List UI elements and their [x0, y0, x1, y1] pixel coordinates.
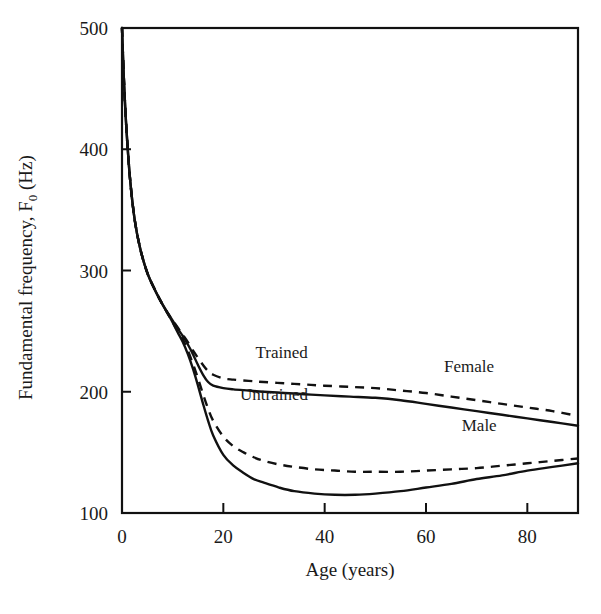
y-axis-title-text: Fundamental frequency, F	[15, 201, 36, 400]
x-tick-label: 80	[518, 526, 537, 547]
x-axis-title: Age (years)	[305, 559, 394, 581]
y-axis-ticks: 100200300400500	[80, 18, 132, 524]
svg-text:Fundamental frequency, F0 (Hz): Fundamental frequency, F0 (Hz)	[15, 155, 40, 400]
x-tick-label: 0	[117, 526, 127, 547]
curve-label-untrained: Untrained	[240, 385, 308, 404]
curve-annotations: TrainedUntrainedFemaleMale	[240, 343, 497, 435]
figure-caption	[8, 600, 593, 614]
y-tick-label: 100	[80, 503, 109, 524]
series-line-male-untrained	[122, 28, 578, 495]
series-line-female-untrained	[122, 28, 578, 426]
y-tick-label: 500	[80, 18, 109, 39]
y-tick-label: 300	[80, 261, 109, 282]
plot-frame	[122, 28, 578, 513]
curve-label-female: Female	[444, 357, 494, 376]
x-tick-label: 60	[417, 526, 436, 547]
figure-container: Fundamental frequency, F0 (Hz) 100200300…	[0, 0, 601, 614]
y-axis-title-unit: (Hz)	[15, 155, 37, 195]
y-axis-title: Fundamental frequency, F0 (Hz)	[15, 155, 40, 400]
x-tick-label: 40	[315, 526, 334, 547]
series-line-male-trained	[122, 28, 578, 472]
line-chart: Fundamental frequency, F0 (Hz) 100200300…	[0, 0, 601, 614]
series-group	[122, 28, 578, 495]
y-tick-label: 200	[80, 382, 109, 403]
curve-label-male: Male	[462, 416, 497, 435]
x-axis-ticks: 020406080	[117, 503, 537, 547]
x-tick-label: 20	[214, 526, 233, 547]
curve-label-trained: Trained	[255, 343, 308, 362]
y-tick-label: 400	[80, 139, 109, 160]
